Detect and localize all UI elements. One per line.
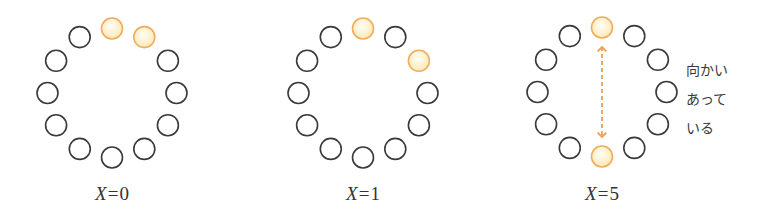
seat-icon xyxy=(624,26,645,47)
seat-highlighted-icon xyxy=(102,18,123,39)
seat-icon xyxy=(385,138,406,159)
seat-icon xyxy=(46,50,67,71)
seat-icon xyxy=(37,83,58,104)
seat-icon xyxy=(69,138,90,159)
label-variable: X xyxy=(346,183,358,204)
label-x-equals-1: X=1 xyxy=(303,182,423,206)
seat-highlighted-icon xyxy=(592,17,613,38)
seat-icon xyxy=(647,49,668,70)
seat-icon xyxy=(157,115,178,136)
seat-icon xyxy=(417,83,438,104)
label-value: 5 xyxy=(609,183,619,204)
seat-icon xyxy=(527,82,548,103)
note-line: 向かい xyxy=(686,56,728,85)
seat-icon xyxy=(353,147,374,168)
seat-icon xyxy=(297,50,318,71)
seat-icon xyxy=(385,27,406,48)
seat-icon xyxy=(624,137,645,158)
seat-icon xyxy=(288,83,309,104)
seat-icon xyxy=(408,115,429,136)
label-variable: X xyxy=(95,183,107,204)
seat-highlighted-icon xyxy=(353,18,374,39)
seat-icon xyxy=(656,82,677,103)
seat-icon xyxy=(320,27,341,48)
panel-x-equals-5 xyxy=(527,17,677,167)
label-equals: = xyxy=(358,183,371,204)
seat-icon xyxy=(559,137,580,158)
label-value: 0 xyxy=(119,183,129,204)
seat-icon xyxy=(647,114,668,135)
diagram-stage: X=0 X=1 X=5 向かい あって いる xyxy=(0,0,769,220)
seat-icon xyxy=(46,115,67,136)
seat-highlighted-icon xyxy=(134,27,155,48)
seat-icon xyxy=(536,114,557,135)
seat-icon xyxy=(297,115,318,136)
seat-icon xyxy=(102,147,123,168)
label-equals: = xyxy=(107,183,120,204)
seat-icon xyxy=(69,27,90,48)
seat-icon xyxy=(536,49,557,70)
panel-x-equals-0 xyxy=(37,18,187,168)
panel-x-equals-1 xyxy=(288,18,438,168)
label-equals: = xyxy=(597,183,610,204)
facing-note: 向かい あって いる xyxy=(686,56,728,143)
seat-highlighted-icon xyxy=(592,146,613,167)
label-x-equals-0: X=0 xyxy=(52,182,172,206)
note-line: いる xyxy=(686,114,728,143)
note-line: あって xyxy=(686,85,728,114)
seat-icon xyxy=(134,138,155,159)
label-x-equals-5: X=5 xyxy=(542,182,662,206)
seat-highlighted-icon xyxy=(408,50,429,71)
seat-icon xyxy=(559,26,580,47)
seat-icon xyxy=(166,83,187,104)
label-variable: X xyxy=(585,183,597,204)
seat-icon xyxy=(157,50,178,71)
seat-icon xyxy=(320,138,341,159)
label-value: 1 xyxy=(370,183,380,204)
